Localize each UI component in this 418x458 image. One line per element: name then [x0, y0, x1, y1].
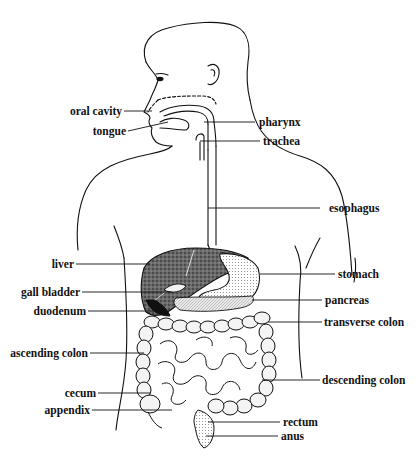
label-ascending-colon: ascending colon	[0, 347, 88, 359]
label-oral-cavity: oral cavity	[40, 105, 122, 117]
label-anus: anus	[281, 430, 304, 442]
label-rectum: rectum	[283, 416, 318, 428]
label-cecum: cecum	[30, 387, 96, 399]
descending-colon-shape	[208, 324, 276, 415]
label-appendix: appendix	[20, 404, 90, 416]
pancreas-shape	[174, 296, 254, 311]
small-intestine	[158, 337, 258, 405]
ascending-colon-shape	[136, 326, 153, 398]
label-transverse-colon: transverse colon	[324, 316, 404, 328]
leader-tongue	[128, 122, 168, 131]
label-pharynx: pharynx	[259, 116, 301, 128]
label-duodenum: duodenum	[0, 305, 86, 317]
label-liver: liver	[20, 258, 74, 270]
label-tongue: tongue	[60, 125, 126, 137]
label-trachea: trachea	[263, 135, 300, 147]
appendix-shape	[148, 412, 162, 428]
label-stomach: stomach	[338, 268, 379, 280]
esophagus-tube	[208, 146, 220, 254]
label-gall-bladder: gall bladder	[0, 286, 80, 298]
label-descending-colon: descending colon	[322, 374, 405, 386]
label-esophagus: esophagus	[329, 202, 380, 214]
label-pancreas: pancreas	[325, 294, 369, 306]
oral-cavity-structure	[148, 96, 216, 160]
rectum-shape	[194, 410, 214, 448]
digestive-system-diagram: oral cavity tongue pharynx trachea esoph…	[0, 0, 418, 458]
